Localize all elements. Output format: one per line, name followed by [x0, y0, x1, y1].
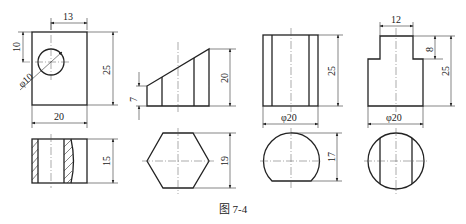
dim-25-b: 25 — [326, 66, 337, 76]
view4-circle — [364, 128, 428, 194]
dim-7: 7 — [128, 97, 139, 102]
view1-section: 15 — [32, 134, 118, 188]
view3-truncated-circle: 17 — [260, 128, 342, 190]
dim-25-c: 25 — [440, 66, 451, 76]
dim-phi20-a: φ20 — [281, 112, 297, 123]
view3-front: 25 φ20 — [263, 28, 343, 128]
dim-12: 12 — [391, 14, 401, 25]
view2-front: 20 7 — [128, 42, 236, 120]
dim-19: 19 — [219, 156, 230, 166]
dim-phi20-b: φ20 — [386, 112, 402, 123]
dim-20: 20 — [54, 111, 64, 122]
dim-17: 17 — [326, 152, 337, 162]
technical-drawing: 13 10 25 φ10 20 — [0, 0, 466, 224]
dim-15: 15 — [101, 156, 112, 166]
dim-8: 8 — [424, 47, 435, 52]
dim-10: 10 — [11, 42, 22, 52]
figure-caption: 图 7-4 — [0, 200, 466, 216]
view2-hexagon: 19 — [142, 128, 236, 194]
view1-front: 13 10 25 φ10 20 — [11, 11, 118, 128]
dim-25-a: 25 — [101, 65, 112, 75]
dim-20-b: 20 — [219, 73, 230, 83]
dim-13: 13 — [63, 11, 73, 22]
view4-front: 12 8 25 φ20 — [368, 14, 455, 128]
